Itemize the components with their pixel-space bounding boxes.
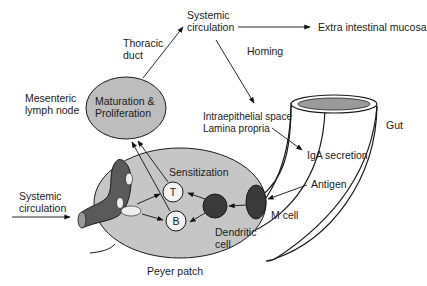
label-line: Mesenteric <box>25 92 79 104</box>
label-line: Maturation & <box>95 95 155 107</box>
label-line: lymph node <box>25 104 79 116</box>
label-lamina-propria: Lamina propria <box>203 123 270 135</box>
label-iga-secretion: IgA secretion <box>307 149 368 161</box>
label-line: circulation <box>19 202 66 214</box>
label-line: cell <box>215 238 256 250</box>
label-line: Proliferation <box>95 107 155 119</box>
label-b-cell: B <box>170 215 182 227</box>
vessel-cell-2 <box>117 198 124 209</box>
label-intraepithelial-space: Intraepithelial space <box>203 111 292 123</box>
label-systemic-circulation-left: Systemic circulation <box>19 190 66 214</box>
label-line: Dendritic <box>215 226 256 238</box>
label-gut: Gut <box>386 119 403 131</box>
label-peyer-patch: Peyer patch <box>147 265 203 277</box>
label-line: circulation <box>187 21 234 33</box>
label-line: Thoracic <box>123 37 163 49</box>
label-t-cell: T <box>167 186 179 198</box>
label-extra-intestinal-mucosa: Extra intestinal mucosa <box>318 21 427 33</box>
label-line: Systemic <box>19 190 66 202</box>
vessel-opening <box>78 212 86 228</box>
m-cell <box>246 185 266 219</box>
label-mesenteric-lymph-node: Mesenteric lymph node <box>25 92 79 116</box>
label-line: Systemic <box>187 9 234 21</box>
vessel-cell-1 <box>126 173 133 185</box>
label-homing: Homing <box>247 45 283 57</box>
label-sensitization: Sensitization <box>169 166 229 178</box>
label-line: duct <box>123 49 163 61</box>
label-dendritic-cell: Dendritic cell <box>215 226 256 250</box>
label-maturation-proliferation: Maturation & Proliferation <box>95 95 155 119</box>
label-antigen: Antigen <box>311 178 347 190</box>
gut-lumen <box>298 98 370 110</box>
label-m-cell: M cell <box>271 209 298 221</box>
label-thoracic-duct: Thoracic duct <box>123 37 163 61</box>
migrating-lymphocyte <box>121 206 141 216</box>
label-systemic-circulation-top: Systemic circulation <box>187 9 234 33</box>
dendritic-cell <box>203 194 227 218</box>
